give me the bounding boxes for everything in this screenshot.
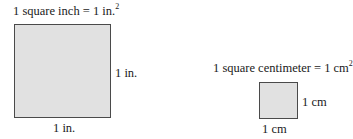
square-inch-bottom-side-label: 1 in. (53, 122, 75, 135)
square-centimeter-shape (259, 82, 298, 119)
square-centimeter-caption: 1 square centimeter = 1 cm2 (213, 62, 353, 75)
square-centimeter-caption-text: 1 square centimeter = 1 cm (213, 61, 349, 75)
square-inch-exponent: 2 (115, 2, 119, 11)
square-inch-right-side-label: 1 in. (115, 67, 137, 80)
square-inch-caption: 1 square inch = 1 in.2 (13, 5, 119, 18)
square-centimeter-right-side-label: 1 cm (302, 96, 327, 109)
square-centimeter-exponent: 2 (349, 59, 353, 68)
square-inch-shape (14, 24, 111, 118)
square-inch-caption-text: 1 square inch = 1 in. (13, 4, 115, 18)
square-centimeter-bottom-side-label: 1 cm (262, 123, 287, 136)
